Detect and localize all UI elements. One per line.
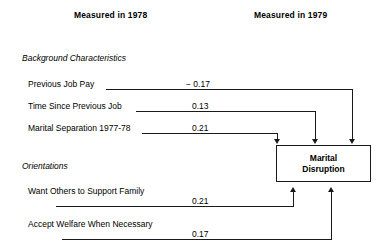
path-line-time-since-previous-job-vertical xyxy=(315,111,316,140)
path-line-previous-job-pay-vertical xyxy=(352,89,353,140)
section-header-orientations: Orientations xyxy=(22,161,68,171)
coefficient-time-since-previous-job: 0.13 xyxy=(192,101,209,111)
variable-label-previous-job-pay: Previous Job Pay xyxy=(28,79,94,89)
arrowhead-time-since-previous-job xyxy=(312,139,318,144)
arrowhead-marital-separation xyxy=(274,139,280,144)
coefficient-want-others-to-support-family: 0.21 xyxy=(192,196,209,206)
variable-label-time-since-previous-job: Time Since Previous Job xyxy=(28,101,122,111)
path-line-accept-welfare-horizontal xyxy=(62,239,332,240)
path-diagram: Measured in 1978 Measured in 1979 Backgr… xyxy=(0,0,386,251)
column-header-right: Measured in 1979 xyxy=(254,10,327,20)
coefficient-marital-separation: 0.21 xyxy=(192,123,209,133)
path-line-time-since-previous-job-horizontal xyxy=(136,111,315,112)
section-header-background-characteristics: Background Characteristics xyxy=(22,53,126,63)
coefficient-accept-welfare-when-necessary: 0.17 xyxy=(192,229,209,239)
arrowhead-want-others xyxy=(290,187,296,192)
path-line-want-others-vertical xyxy=(293,192,294,207)
variable-label-accept-welfare-when-necessary: Accept Welfare When Necessary xyxy=(28,219,153,229)
path-line-accept-welfare-vertical xyxy=(331,192,332,240)
outcome-box-label: Marital Disruption xyxy=(302,153,345,174)
outcome-box-marital-disruption: Marital Disruption xyxy=(276,145,371,182)
arrowhead-previous-job-pay xyxy=(349,139,355,144)
path-line-previous-job-pay-horizontal xyxy=(106,89,352,90)
arrowhead-accept-welfare xyxy=(328,187,334,192)
variable-label-want-others-to-support-family: Want Others to Support Family xyxy=(28,186,144,196)
variable-label-marital-separation: Marital Separation 1977-78 xyxy=(28,123,131,133)
coefficient-previous-job-pay: − 0.17 xyxy=(186,79,210,89)
path-line-want-others-horizontal xyxy=(56,206,293,207)
path-line-marital-separation-horizontal xyxy=(142,133,277,134)
column-header-left: Measured in 1978 xyxy=(74,10,147,20)
